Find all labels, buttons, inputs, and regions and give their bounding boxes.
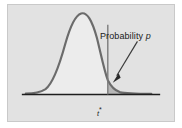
annotation-prefix-text: Probability [100,31,146,41]
probability-annotation-label: Probability p [100,32,151,41]
axis-tick-label-t-star: t* [97,106,102,117]
curve-body-area [26,14,108,95]
chart-panel: Probability p t* [7,4,175,122]
statistics-figure: Probability p t* [0,0,182,128]
tick-superscript-star: * [99,106,102,113]
annotation-arrow-shaft [117,41,138,75]
distribution-plot [8,5,174,121]
annotation-variable-p: p [146,31,151,41]
